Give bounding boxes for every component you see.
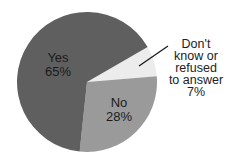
slice-value-no: 28% [106,109,132,124]
pie-chart: Yes 65% No 28% Don't know or refused to … [0,0,227,157]
slice-value-yes: 65% [45,64,71,79]
slice-label-yes: Yes [47,50,69,65]
outside-value-dk: 7% [187,85,205,99]
pie-slices [17,12,157,152]
slice-label-no: No [111,95,128,110]
